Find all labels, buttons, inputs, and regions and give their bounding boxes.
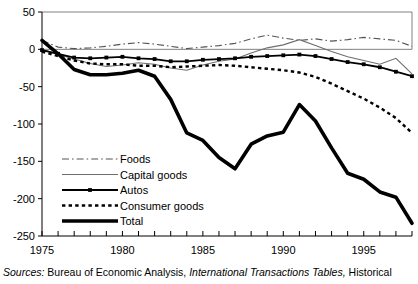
series-marker-autos [153,57,157,61]
series-line-total [42,40,412,223]
y-tick-label: -100 [13,118,35,130]
legend-item-capital-goods: Capital goods [62,169,188,181]
legend-item-consumer-goods: Consumer goods [62,200,204,212]
x-axis-ticks [42,231,412,236]
series-marker-autos [314,54,318,58]
series-line-foods [42,35,412,48]
y-tick-label: -150 [13,155,35,167]
series-marker-autos [410,74,414,78]
source-publication: International Transactions Tables, [189,266,345,278]
grid-lines [42,12,412,49]
y-tick-label: 50 [23,6,35,18]
legend-label: Autos [120,184,149,196]
series-marker-autos [249,55,253,59]
y-axis-ticks [38,12,42,236]
series-line-autos [42,50,412,76]
chart-figure: 500-50-100-150-200-250 19751980198519901… [0,0,418,284]
series-marker-autos [201,58,205,62]
source-lead: Sources: [3,266,44,278]
series-marker-autos [233,56,237,60]
series-marker-autos [217,57,221,61]
legend-item-autos: Autos [62,184,149,196]
series-marker-autos [169,59,173,63]
legend-label: Consumer goods [120,200,204,212]
legend-label: Total [120,215,143,227]
x-tick-label: 1985 [191,244,215,256]
line-chart: 500-50-100-150-200-250 19751980198519901… [0,0,418,284]
y-tick-label: 0 [29,43,35,55]
series-marker-autos [137,56,141,60]
series-line-capital-goods [42,40,412,74]
legend-item-foods: Foods [62,153,151,165]
legend-label: Foods [120,153,151,165]
series-marker-autos [265,54,269,58]
legend-label: Capital goods [120,169,188,181]
source-part2: Historical [349,266,392,278]
source-note: Sources: Bureau of Economic Analysis, In… [3,266,415,279]
series-marker-autos [378,65,382,69]
series-marker-autos [104,56,108,60]
source-part1: Bureau of Economic Analysis, [47,266,186,278]
y-tick-label: -250 [13,230,35,242]
x-tick-label: 1995 [351,244,375,256]
y-axis-tick-labels: 500-50-100-150-200-250 [13,6,35,242]
series-marker-autos [185,59,189,63]
series-marker-autos [330,57,334,61]
series-marker-autos [297,53,301,57]
series-marker-autos [394,70,398,74]
series-marker-autos [88,56,92,60]
series-marker-autos [281,53,285,57]
series-marker-autos [121,55,125,59]
series-layer [40,35,414,223]
series-marker-autos [346,60,350,64]
chart-legend: FoodsCapital goodsAutosConsumer goodsTot… [62,153,204,227]
x-tick-label: 1975 [30,244,54,256]
x-tick-label: 1980 [110,244,134,256]
x-axis-tick-labels: 19751980198519901995 [30,244,376,256]
series-marker-autos [362,62,366,66]
y-tick-label: -50 [19,81,35,93]
legend-marker-autos [88,188,92,192]
legend-item-total: Total [62,215,143,227]
series-marker-autos [72,56,76,60]
y-tick-label: -200 [13,193,35,205]
x-tick-label: 1990 [271,244,295,256]
